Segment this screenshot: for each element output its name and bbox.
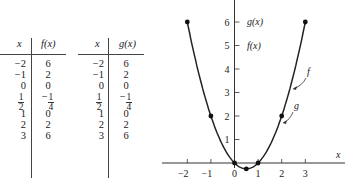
arrow-g-head [283, 120, 287, 124]
y-tick-label: 2 [225, 111, 230, 122]
x-tick-label: −1 [202, 168, 213, 179]
y-tick-label: 6 [225, 17, 230, 28]
x-axis-label: x [335, 149, 341, 160]
arrow-f-head [293, 86, 297, 90]
data-point [256, 161, 261, 166]
x-tick-label: 3 [303, 168, 308, 179]
x-tick-label: −2 [178, 168, 189, 179]
data-point [303, 20, 308, 25]
data-point [279, 114, 284, 119]
data-point [232, 161, 237, 166]
annotation-fx: f(x) [247, 40, 262, 52]
data-point [185, 20, 190, 25]
x-tick-label: 0 [232, 168, 237, 179]
curve-label-f: f [307, 66, 311, 77]
annotation-gx: g(x) [247, 16, 264, 28]
data-point [244, 166, 249, 171]
arrow-f [293, 78, 306, 89]
curve-label-g: g [294, 100, 299, 111]
chart: x −2−10123 123456 g(x) f(x) f g [0, 0, 348, 190]
y-tick-label: 1 [225, 134, 230, 145]
arrow-g [283, 112, 293, 123]
y-ticks: 123456 [225, 17, 240, 146]
y-tick-label: 5 [225, 40, 230, 51]
x-tick-label: 2 [279, 168, 284, 179]
data-point [209, 114, 214, 119]
y-tick-label: 3 [225, 87, 230, 98]
y-tick-label: 4 [225, 64, 230, 75]
x-tick-label: 1 [256, 168, 261, 179]
